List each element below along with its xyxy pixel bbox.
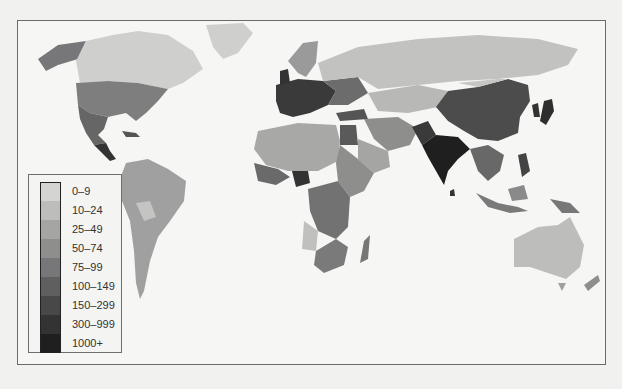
legend-swatch (40, 334, 61, 353)
region-caribbean[interactable] (122, 131, 140, 137)
region-south-america[interactable] (120, 159, 186, 299)
legend-label: 50–74 (72, 242, 103, 254)
region-new-zealand[interactable] (584, 275, 600, 291)
region-india[interactable] (422, 135, 470, 185)
region-canada[interactable] (76, 31, 203, 89)
legend-swatch (40, 277, 61, 296)
legend-item: 75–99 (29, 258, 121, 277)
region-china[interactable] (436, 79, 530, 141)
legend-label: 1000+ (72, 337, 103, 349)
legend-item: 25–49 (29, 220, 121, 239)
legend-swatch (40, 296, 61, 315)
region-turkey[interactable] (336, 109, 368, 121)
region-uk[interactable] (280, 69, 290, 85)
legend-label: 10–24 (72, 204, 103, 216)
region-southern-africa[interactable] (314, 239, 348, 273)
legend-label: 150–299 (72, 299, 115, 311)
region-greenland[interactable] (206, 23, 253, 59)
map-frame: 0–9 10–24 25–49 50–74 75–99 100–149 150–… (17, 20, 606, 365)
legend-item: 300–999 (29, 315, 121, 334)
region-tasmania[interactable] (558, 283, 566, 291)
legend-label: 300–999 (72, 318, 115, 330)
region-papua[interactable] (550, 199, 580, 213)
region-korea[interactable] (532, 103, 540, 117)
legend-label: 75–99 (72, 261, 103, 273)
legend-label: 100–149 (72, 280, 115, 292)
legend-label: 0–9 (72, 185, 90, 197)
legend-swatch (40, 220, 61, 239)
region-scandinavia[interactable] (288, 41, 318, 77)
legend-swatch (40, 201, 61, 220)
legend-item: 10–24 (29, 201, 121, 220)
region-nigeria[interactable] (292, 171, 310, 187)
region-madagascar[interactable] (360, 235, 370, 263)
region-australia[interactable] (514, 217, 584, 279)
legend-item: 150–299 (29, 296, 121, 315)
legend-item: 1000+ (29, 334, 121, 353)
legend-swatch (40, 315, 61, 334)
region-southeast-asia[interactable] (470, 145, 504, 181)
region-north-africa[interactable] (254, 123, 340, 171)
legend-label: 25–49 (72, 223, 103, 235)
legend-swatch (40, 258, 61, 277)
region-angola[interactable] (302, 221, 318, 251)
legend-item: 100–149 (29, 277, 121, 296)
region-japan[interactable] (540, 99, 554, 125)
region-philippines[interactable] (518, 153, 530, 177)
region-sri-lanka[interactable] (450, 189, 455, 196)
legend-item: 0–9 (29, 182, 121, 201)
map-legend: 0–9 10–24 25–49 50–74 75–99 100–149 150–… (28, 174, 122, 353)
region-central-america[interactable] (94, 143, 116, 161)
legend-item: 50–74 (29, 239, 121, 258)
region-central-asia[interactable] (368, 85, 448, 113)
region-egypt[interactable] (340, 125, 358, 145)
region-borneo[interactable] (508, 185, 528, 201)
legend-swatch (40, 182, 61, 201)
region-western-europe[interactable] (276, 79, 336, 117)
legend-swatch (40, 239, 61, 258)
